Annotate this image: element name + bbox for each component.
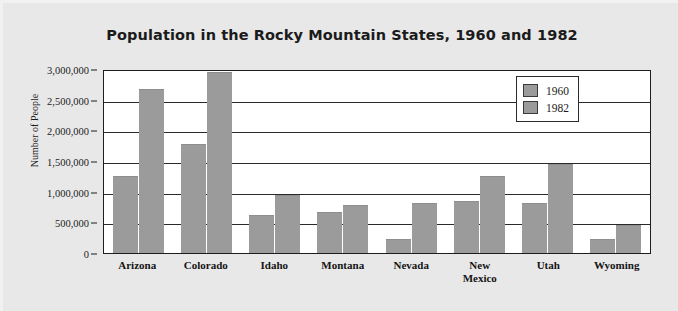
legend-item: 1960	[523, 82, 569, 99]
bar-group	[445, 71, 513, 253]
legend-label-1960: 1960	[546, 85, 569, 97]
chart-figure: Population in the Rocky Mountain States,…	[0, 0, 678, 311]
bar[interactable]	[616, 225, 641, 253]
x-tick-label: Colorado	[172, 259, 241, 285]
y-tick-mark	[91, 131, 97, 132]
y-tick-mark	[91, 192, 97, 193]
bar[interactable]	[249, 215, 274, 253]
chart-legend: 1960 1982	[516, 76, 579, 122]
bar-group	[309, 71, 377, 253]
x-tick-label: Arizona	[103, 259, 172, 285]
bar[interactable]	[454, 201, 479, 253]
x-tick-label: Utah	[514, 259, 583, 285]
bar[interactable]	[386, 239, 411, 253]
bar[interactable]	[113, 176, 138, 253]
y-tick-label: 2,500,000	[47, 95, 89, 106]
bar-group	[377, 71, 445, 253]
bar[interactable]	[343, 205, 368, 253]
y-tick-label: 2,000,000	[47, 126, 89, 137]
bar[interactable]	[590, 239, 615, 253]
legend-item: 1982	[523, 99, 569, 116]
x-tick-label: Montana	[309, 259, 378, 285]
y-tick-mark	[91, 254, 97, 255]
bar[interactable]	[548, 164, 573, 253]
y-tick-label: 1,000,000	[47, 187, 89, 198]
x-tick-label: NewMexico	[446, 259, 515, 285]
bar[interactable]	[275, 195, 300, 253]
bar[interactable]	[207, 72, 232, 253]
bar[interactable]	[181, 144, 206, 253]
y-tick-label: 3,000,000	[47, 65, 89, 76]
bar[interactable]	[522, 203, 547, 253]
y-tick-mark	[91, 70, 97, 71]
x-tick-label: Nevada	[377, 259, 446, 285]
y-tick-mark	[91, 100, 97, 101]
legend-label-1982: 1982	[546, 102, 569, 114]
bar[interactable]	[139, 89, 164, 253]
bar[interactable]	[480, 176, 505, 253]
bar-group	[241, 71, 309, 253]
y-tick-label: 500,000	[55, 218, 89, 229]
x-tick-label: Idaho	[240, 259, 309, 285]
bar-group	[582, 71, 650, 253]
bar[interactable]	[317, 212, 342, 253]
x-axis-tick-labels: ArizonaColoradoIdahoMontanaNevadaNewMexi…	[103, 259, 651, 285]
y-tick-label: 0	[84, 249, 89, 260]
y-tick-mark	[91, 223, 97, 224]
bar[interactable]	[412, 203, 437, 253]
legend-swatch-1982	[523, 101, 538, 114]
bar-group	[104, 71, 172, 253]
chart-title: Population in the Rocky Mountain States,…	[3, 27, 678, 43]
y-tick-label: 1,500,000	[47, 157, 89, 168]
x-tick-label: Wyoming	[583, 259, 652, 285]
y-tick-mark	[91, 162, 97, 163]
y-axis-tick-labels: 3,000,0002,500,0002,000,0001,500,0001,00…	[3, 70, 97, 254]
legend-swatch-1960	[523, 84, 538, 97]
bar-group	[172, 71, 240, 253]
